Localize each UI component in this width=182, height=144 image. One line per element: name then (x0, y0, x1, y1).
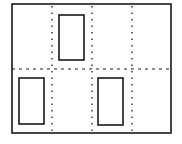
block-bottom-left (19, 78, 44, 124)
block-top (59, 15, 84, 60)
blocks-group (19, 15, 123, 125)
block-bottom-right (98, 78, 123, 125)
vertical-dividers (52, 6, 132, 133)
grid-diagram (0, 0, 182, 144)
